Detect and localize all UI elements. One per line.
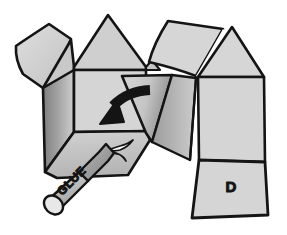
- illustration-root: GLUE D: [0, 0, 287, 235]
- center-gable-triangle: [74, 15, 146, 70]
- right-side-panel: [198, 77, 265, 162]
- assembly-diagram-svg: GLUE D: [0, 0, 287, 235]
- panel-d-label: D: [226, 178, 237, 195]
